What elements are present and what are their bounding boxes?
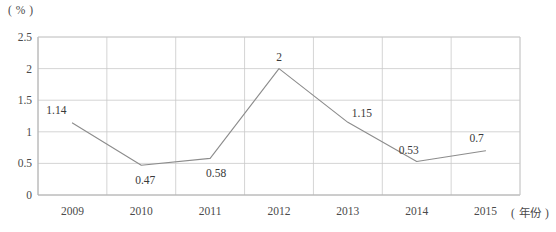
line-chart: ( % ) ( 年份 ) 2.521.510.50 20092010201120… bbox=[0, 0, 556, 232]
plot-canvas bbox=[0, 0, 556, 232]
x-axis-tick-label: 2009 bbox=[61, 205, 84, 217]
y-axis-tick-label: 0 bbox=[26, 189, 32, 201]
data-series-line bbox=[72, 69, 485, 166]
x-axis-tick-label: 2013 bbox=[336, 205, 359, 217]
data-point-label: 1.14 bbox=[46, 104, 66, 116]
data-point-label: 0.58 bbox=[206, 167, 226, 179]
y-axis-tick-label: 0.5 bbox=[18, 157, 32, 169]
data-point-label: 0.7 bbox=[469, 132, 483, 144]
x-axis-tick-label: 2010 bbox=[130, 205, 153, 217]
data-point-label: 1.15 bbox=[352, 107, 372, 119]
x-axis-tick-label: 2011 bbox=[199, 205, 222, 217]
x-axis-tick-label: 2015 bbox=[474, 205, 497, 217]
data-point-label: 2 bbox=[276, 51, 282, 63]
y-axis-tick-label: 1 bbox=[26, 126, 32, 138]
x-axis-tick-label: 2014 bbox=[405, 205, 428, 217]
y-axis-tick-label: 1.5 bbox=[18, 94, 32, 106]
data-point-label: 0.47 bbox=[135, 174, 155, 186]
x-axis-tick-label: 2012 bbox=[268, 205, 291, 217]
data-point-label: 0.53 bbox=[399, 144, 419, 156]
y-axis-tick-label: 2 bbox=[26, 63, 32, 75]
y-axis-tick-label: 2.5 bbox=[18, 31, 32, 43]
